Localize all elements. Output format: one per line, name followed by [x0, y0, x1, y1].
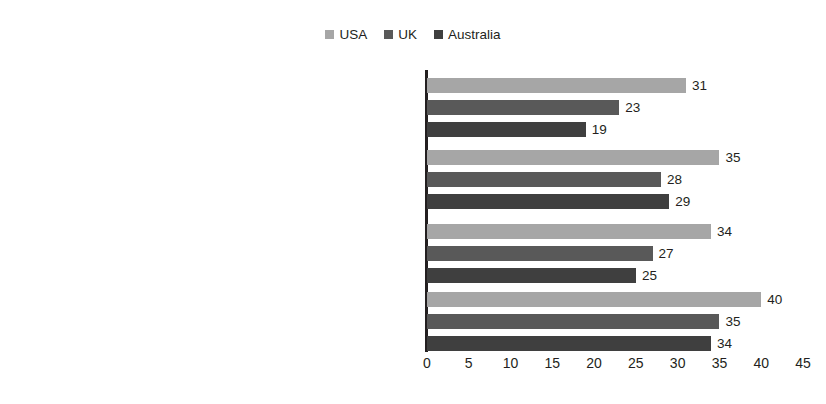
bar-usa[interactable] — [427, 292, 761, 307]
bar-group: 312319 — [427, 78, 803, 144]
legend-label: UK — [398, 28, 417, 42]
bar-uk[interactable] — [427, 100, 619, 115]
chart-legend: USAUKAustralia — [0, 28, 826, 42]
bar-value-label: 23 — [619, 100, 640, 113]
bar-row: 25 — [427, 268, 803, 283]
bar-value-label: 35 — [719, 150, 740, 164]
legend-swatch-usa — [325, 30, 334, 39]
bar-australia[interactable] — [427, 268, 636, 283]
legend-entry[interactable]: USA — [325, 28, 367, 42]
bar-value-label: 27 — [653, 246, 674, 260]
bar-value-label: 35 — [719, 314, 740, 328]
bar-uk[interactable] — [427, 246, 653, 261]
bar-value-label: 34 — [711, 224, 732, 238]
bar-australia[interactable] — [427, 122, 586, 137]
legend-entry[interactable]: Australia — [434, 28, 501, 42]
bar-group: 352829 — [427, 150, 803, 216]
bar-value-label: 19 — [586, 122, 607, 135]
bar-value-label: 34 — [711, 336, 732, 350]
bar-usa[interactable] — [427, 150, 719, 165]
x-tick-label: 10 — [503, 356, 519, 370]
bar-uk[interactable] — [427, 172, 661, 187]
bar-usa[interactable] — [427, 224, 711, 239]
bar-row: 35 — [427, 314, 803, 329]
x-tick-label: 5 — [465, 356, 473, 370]
bar-value-label: 29 — [669, 194, 690, 208]
legend-label: Australia — [448, 28, 501, 42]
bar-australia[interactable] — [427, 194, 669, 209]
bar-row: 35 — [427, 150, 803, 165]
bar-value-label: 40 — [761, 292, 782, 306]
bar-row: 27 — [427, 246, 803, 261]
x-tick-label: 15 — [545, 356, 561, 370]
x-axis-ticks: 051015202530354045 — [427, 356, 803, 380]
x-tick-label: 25 — [628, 356, 644, 370]
bar-australia[interactable] — [427, 336, 711, 351]
legend-swatch-uk — [384, 30, 393, 39]
x-tick-label: 45 — [795, 356, 811, 370]
bar-value-label: 25 — [636, 268, 657, 282]
x-tick-label: 30 — [670, 356, 686, 370]
bar-group: 342725 — [427, 224, 803, 290]
legend-swatch-australia — [434, 30, 443, 39]
bar-row: 40 — [427, 292, 803, 307]
bar-row: 31 — [427, 78, 803, 93]
plot-area: 312319Encourage other people to vote, or… — [427, 70, 803, 352]
bar-group: 403534 — [427, 292, 803, 358]
bar-row: 34 — [427, 224, 803, 239]
legend-label: USA — [339, 28, 367, 42]
bar-row: 28 — [427, 172, 803, 187]
bar-uk[interactable] — [427, 314, 719, 329]
bar-row: 23 — [427, 100, 803, 115]
grouped-bar-chart: USAUKAustralia 312319Encourage other peo… — [0, 0, 826, 404]
bar-value-label: 28 — [661, 172, 682, 186]
bar-value-label: 31 — [686, 78, 707, 91]
bar-row: 34 — [427, 336, 803, 351]
x-tick-label: 0 — [423, 356, 431, 370]
x-tick-label: 20 — [586, 356, 602, 370]
bar-usa[interactable] — [427, 78, 686, 93]
legend-entry[interactable]: UK — [384, 28, 417, 42]
bar-row: 29 — [427, 194, 803, 209]
bar-row: 19 — [427, 122, 803, 137]
x-tick-label: 35 — [712, 356, 728, 370]
x-tick-label: 40 — [753, 356, 769, 370]
